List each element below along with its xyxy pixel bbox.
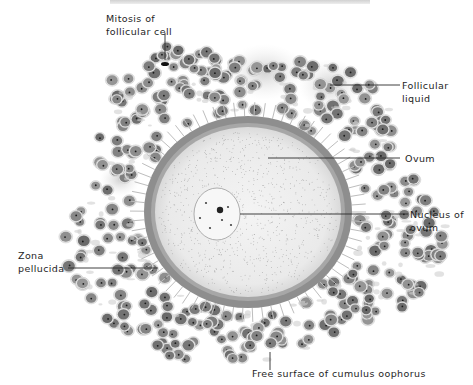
granule	[234, 194, 235, 195]
granule	[303, 244, 304, 245]
intercellular-strand	[78, 229, 82, 234]
cell-nucleolus	[382, 189, 384, 191]
cell-nucleus	[95, 133, 104, 141]
granule	[221, 269, 222, 270]
granule	[233, 251, 234, 252]
granule	[275, 250, 276, 251]
granule	[280, 271, 281, 272]
granule	[198, 243, 199, 244]
follicular-cell	[182, 54, 195, 66]
granule	[170, 230, 171, 231]
granule	[216, 268, 217, 269]
corona-strand	[242, 308, 243, 322]
intercellular-strand	[372, 282, 380, 287]
granule	[177, 228, 178, 229]
granule	[254, 234, 255, 235]
ovum-nucleus	[194, 188, 240, 240]
cell-nucleus	[328, 287, 338, 296]
granule	[213, 168, 214, 169]
granule	[257, 134, 258, 135]
granule	[267, 261, 268, 262]
granule	[242, 279, 243, 280]
granule	[226, 283, 227, 284]
intercellular-strand	[398, 262, 403, 267]
cell-nucleolus	[177, 50, 179, 52]
granule	[329, 239, 330, 240]
cell-nucleus	[348, 270, 357, 278]
granule	[323, 197, 324, 198]
cell-nucleolus	[206, 323, 208, 325]
cell-nucleolus	[148, 66, 150, 68]
granule	[253, 244, 254, 245]
cell-nucleolus	[163, 331, 165, 333]
granule	[224, 260, 225, 261]
cell-nucleus	[307, 61, 319, 71]
granule	[242, 148, 243, 149]
granule	[281, 187, 282, 188]
granule	[187, 156, 188, 157]
granule	[282, 148, 283, 149]
cell-nucleolus	[417, 252, 419, 254]
granule	[312, 199, 313, 200]
granule	[254, 259, 255, 260]
corona-strand	[327, 141, 338, 150]
granule	[290, 208, 291, 209]
granule	[260, 236, 261, 237]
granule	[219, 250, 220, 251]
granule	[223, 278, 224, 279]
intercellular-strand	[372, 154, 378, 157]
granule	[250, 276, 251, 277]
granule	[246, 215, 247, 216]
granule	[241, 165, 242, 166]
label-line: Nucleus of	[410, 208, 464, 221]
corona-strand	[348, 238, 361, 242]
intercellular-strand	[375, 227, 381, 230]
cell-nucleus	[342, 310, 352, 319]
cell-nucleolus	[369, 155, 371, 157]
granule	[256, 258, 257, 259]
granule	[301, 196, 302, 197]
intercellular-strand	[114, 110, 122, 115]
granule	[273, 290, 274, 291]
granule	[181, 242, 182, 243]
granule	[326, 212, 327, 213]
granule	[294, 273, 295, 274]
granule	[202, 185, 203, 186]
granule	[266, 280, 267, 281]
cell-nucleolus	[361, 130, 363, 132]
cell-nucleus	[118, 309, 129, 319]
corona-strand	[252, 308, 253, 322]
cell-nucleolus	[439, 235, 441, 237]
follicular-cell	[327, 63, 338, 73]
granule	[174, 204, 175, 205]
chromatin-granule	[199, 217, 201, 219]
granule	[183, 205, 184, 206]
granule	[292, 249, 293, 250]
granule	[204, 140, 205, 141]
granule	[260, 195, 261, 196]
follicular-cell	[411, 247, 424, 259]
granule	[199, 263, 200, 264]
intercellular-strand	[366, 236, 371, 240]
granule	[272, 222, 273, 223]
granule	[238, 158, 239, 159]
granule	[306, 180, 307, 181]
granule	[331, 240, 332, 241]
granule	[288, 275, 289, 276]
follicular-cell	[139, 323, 152, 335]
granule	[254, 193, 255, 194]
follicular-cell	[344, 66, 358, 78]
follicular-cell	[202, 319, 213, 329]
granule	[276, 287, 277, 288]
granule	[263, 250, 264, 251]
mitotic-figure	[161, 62, 169, 66]
granule	[237, 231, 238, 232]
granule	[261, 206, 262, 207]
granule	[242, 249, 243, 250]
follicular-cell	[216, 105, 229, 117]
granule	[228, 139, 229, 140]
cell-nucleolus	[249, 345, 251, 347]
granule	[166, 206, 167, 207]
granule	[250, 287, 251, 288]
granule	[211, 258, 212, 259]
